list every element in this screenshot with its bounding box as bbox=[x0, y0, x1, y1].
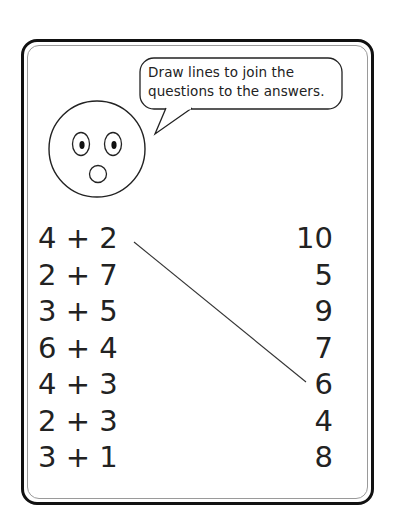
answer-item[interactable]: 7 bbox=[296, 330, 333, 367]
answer-item[interactable]: 10 bbox=[296, 220, 333, 257]
answer-item[interactable]: 6 bbox=[296, 366, 333, 403]
answer-item[interactable]: 8 bbox=[296, 439, 333, 476]
question-item[interactable]: 6 + 4 bbox=[38, 330, 118, 367]
questions-column: 4 + 2 2 + 7 3 + 5 6 + 4 4 + 3 2 + 3 3 + … bbox=[38, 220, 118, 476]
instruction-line-1: Draw lines to join the bbox=[148, 63, 348, 82]
question-item[interactable]: 3 + 1 bbox=[38, 439, 118, 476]
question-item[interactable]: 2 + 7 bbox=[38, 257, 118, 294]
question-item[interactable]: 3 + 5 bbox=[38, 293, 118, 330]
answer-item[interactable]: 5 bbox=[296, 257, 333, 294]
instruction-text: Draw lines to join the questions to the … bbox=[148, 63, 348, 101]
example-connection-line bbox=[134, 242, 306, 382]
question-item[interactable]: 4 + 2 bbox=[38, 220, 118, 257]
question-item[interactable]: 2 + 3 bbox=[38, 403, 118, 440]
question-item[interactable]: 4 + 3 bbox=[38, 366, 118, 403]
answer-item[interactable]: 9 bbox=[296, 293, 333, 330]
surprised-face-icon bbox=[49, 101, 145, 197]
answer-item[interactable]: 4 bbox=[296, 403, 333, 440]
answers-column: 10 5 9 7 6 4 8 bbox=[296, 220, 333, 476]
instruction-line-2: questions to the answers. bbox=[148, 82, 348, 101]
